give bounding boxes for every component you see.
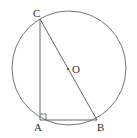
center-point-o <box>67 68 69 70</box>
label-a: A <box>34 121 42 133</box>
label-c: C <box>33 7 40 19</box>
geometry-diagram: C O A B <box>0 0 137 138</box>
label-b: B <box>97 121 104 133</box>
circumcircle <box>12 11 126 125</box>
label-o: O <box>72 63 80 75</box>
